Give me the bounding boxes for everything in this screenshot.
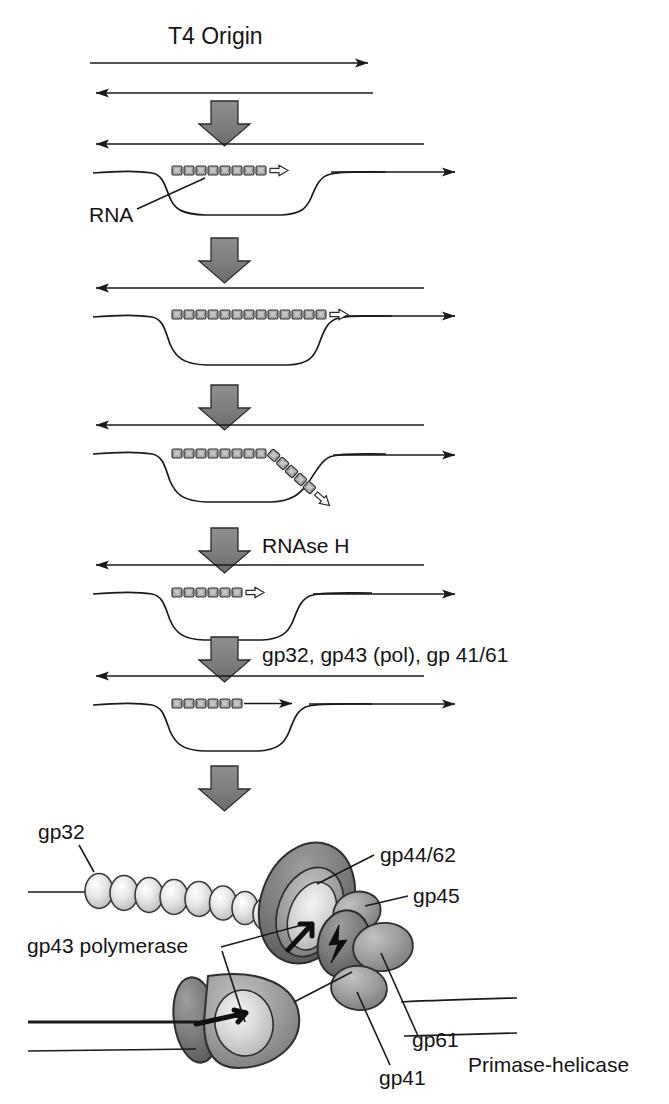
step-4-rna-strand-displacement <box>93 425 455 509</box>
rna-primer-chain <box>172 449 266 458</box>
gp32-bead-chain <box>85 874 279 931</box>
t4-origin-replication-diagram: T4 Origin RNA <box>0 0 669 1104</box>
transition-arrow-6 <box>199 766 250 811</box>
transition-arrow-4 <box>199 528 250 573</box>
rna-primer-displaced-branch <box>267 448 333 509</box>
transition-arrow-2 <box>199 238 250 283</box>
rna-primer-chain <box>172 699 242 708</box>
transition-arrow-1 <box>199 101 250 146</box>
r-loop-template-strand <box>93 453 386 503</box>
step-3-r-loop-extension <box>93 288 455 365</box>
rna-primer-chain <box>172 587 264 597</box>
figure-canvas: T4 Origin RNA <box>0 0 669 1104</box>
rna-leader-line <box>137 178 205 209</box>
step-1-duplex-dna <box>90 63 373 93</box>
gp32-label: gp32 <box>38 820 85 843</box>
r-loop-template-strand <box>93 316 392 366</box>
primase-helicase-label: Primase-helicase <box>468 1053 629 1076</box>
rna-primer-chain <box>172 165 288 175</box>
r-loop-template-strand <box>93 593 372 641</box>
gp44-62-label: gp44/62 <box>380 843 456 866</box>
gp32-leader-line <box>79 845 94 872</box>
gp43-polymerase-blob <box>28 974 299 1068</box>
gp43-polymerase-label: gp43 polymerase <box>27 934 188 957</box>
gp61-label: gp61 <box>412 1028 459 1051</box>
step-2-r-loop-formation: RNA <box>89 144 455 226</box>
enzymes-label: gp32, gp43 (pol), gp 41/61 <box>262 643 508 666</box>
dna-strand-right-upper <box>401 998 517 1002</box>
page-title: T4 Origin <box>168 23 263 49</box>
r-loop-template-strand <box>93 704 372 752</box>
gp41-label: gp41 <box>379 1066 426 1089</box>
transition-arrow-3 <box>199 385 250 430</box>
rna-primer-chain <box>172 309 348 319</box>
step-5-rnase-h-trimmed-primer <box>93 565 455 640</box>
gp45-label: gp45 <box>413 884 460 907</box>
rna-label: RNA <box>89 203 133 226</box>
replisome-panel: gp32 <box>27 820 629 1089</box>
step-6-dna-synthesis-from-primer <box>93 676 455 751</box>
rnase-h-label: RNAse H <box>262 534 350 557</box>
